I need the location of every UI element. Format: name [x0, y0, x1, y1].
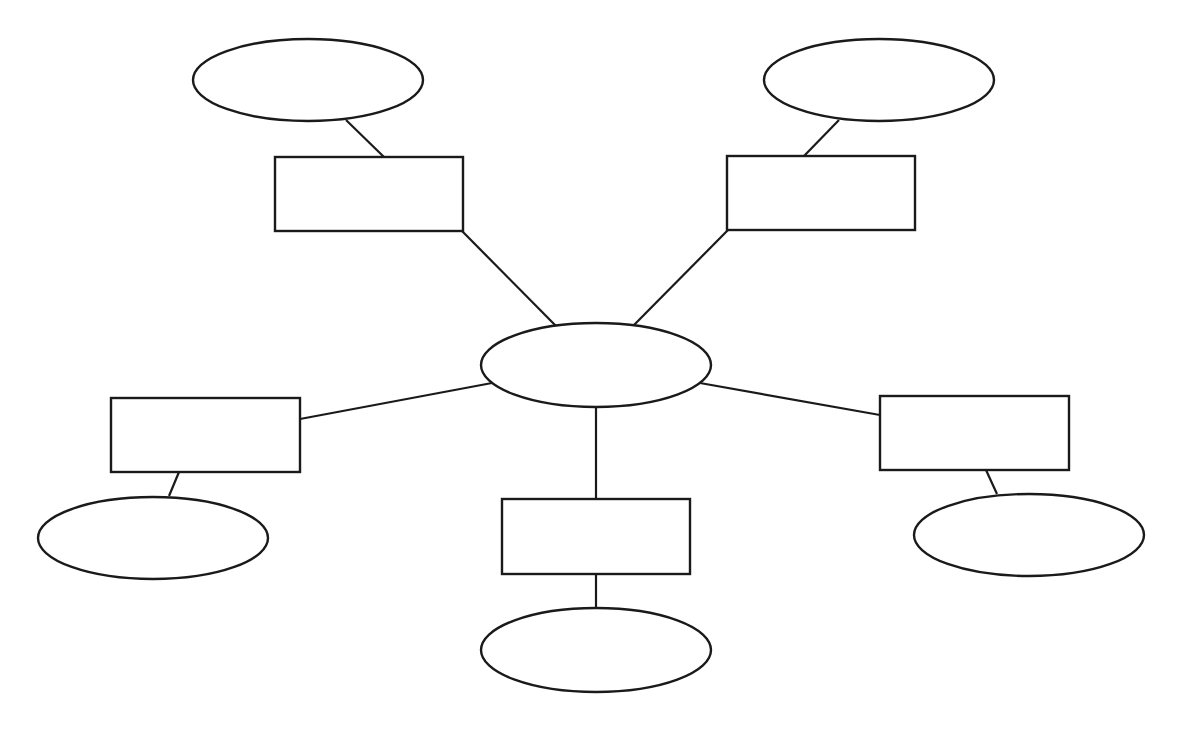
connector-top-left-box-to-oval — [346, 120, 384, 157]
left-box-shape — [111, 398, 300, 472]
top-right-oval-shape — [764, 39, 994, 121]
connector-right-box-to-oval — [986, 470, 997, 494]
left-oval[interactable] — [38, 497, 268, 579]
bottom-oval-shape — [481, 608, 711, 692]
top-left-box-shape — [275, 157, 463, 231]
connector-left-box-to-oval — [169, 472, 179, 496]
connector-top-right-box-to-oval — [804, 120, 839, 156]
top-left-box[interactable] — [275, 157, 463, 231]
right-box[interactable] — [880, 396, 1069, 470]
bottom-oval[interactable] — [481, 608, 711, 692]
top-right-box-shape — [727, 156, 915, 230]
bottom-box-shape — [502, 499, 690, 574]
right-box-shape — [880, 396, 1069, 470]
left-box[interactable] — [111, 398, 300, 472]
connector-center-to-top-left-box — [462, 231, 556, 326]
connector-center-to-left-box — [300, 383, 492, 419]
left-oval-shape — [38, 497, 268, 579]
bottom-box[interactable] — [502, 499, 690, 574]
right-oval[interactable] — [914, 494, 1144, 576]
right-oval-shape — [914, 494, 1144, 576]
spider-diagram — [0, 0, 1179, 738]
top-left-oval-shape — [193, 39, 423, 121]
connector-center-to-top-right-box — [634, 230, 728, 325]
center-oval[interactable] — [481, 323, 711, 407]
top-left-oval[interactable] — [193, 39, 423, 121]
connector-center-to-right-box — [700, 383, 880, 415]
top-right-oval[interactable] — [764, 39, 994, 121]
diagram-nodes — [38, 39, 1144, 692]
top-right-box[interactable] — [727, 156, 915, 230]
center-oval-shape — [481, 323, 711, 407]
